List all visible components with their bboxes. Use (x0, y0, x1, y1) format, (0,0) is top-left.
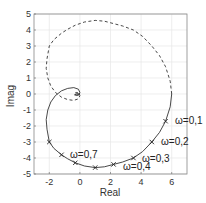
x-axis-label: Real (100, 187, 121, 198)
x-tick-label: 0 (77, 177, 82, 187)
x-tick-label: -2 (45, 177, 53, 187)
annotation-w01: ω=0,1 (175, 115, 203, 126)
annotation-w07: ω=0,7 (70, 149, 98, 160)
annotation-w04: ω=0,4 (123, 161, 151, 172)
y-tick-label: -5 (23, 169, 31, 179)
y-tick-label: 4 (26, 25, 31, 35)
negative-frequency-curve (46, 20, 172, 100)
y-tick-label: -3 (23, 137, 31, 147)
x-tick-label: 4 (139, 177, 144, 187)
x-tick-label: 2 (108, 177, 113, 187)
annotation-w02: ω=0,2 (161, 136, 189, 147)
y-tick-label: 5 (26, 9, 31, 19)
y-tick-label: 3 (26, 41, 31, 51)
y-tick-label: -4 (23, 153, 31, 163)
y-tick-label: 0 (26, 89, 31, 99)
y-axis-label: Imag (5, 85, 16, 107)
y-tick-label: -2 (23, 121, 31, 131)
frequency-marker-x (163, 119, 167, 123)
y-tick-label: 2 (26, 57, 31, 67)
nyquist-chart: -20246543210-1-2-3-4-5 Real Imag ω=0,1 ω… (0, 0, 206, 203)
frequency-marker-x (73, 161, 77, 165)
x-tick-label: 6 (169, 177, 174, 187)
frequency-marker-x (59, 153, 63, 157)
y-tick-label: 1 (26, 73, 31, 83)
y-tick-label: -1 (23, 105, 31, 115)
